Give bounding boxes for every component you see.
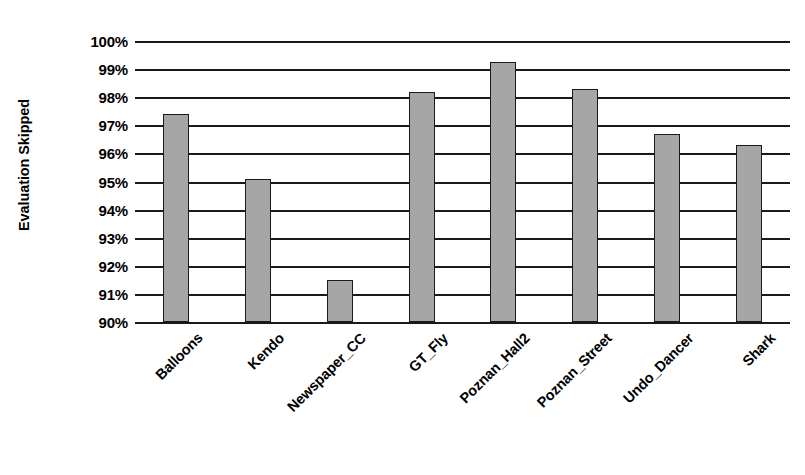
- plot-area: [135, 41, 790, 322]
- y-axis-title-label: Evaluation Skipped: [16, 99, 32, 231]
- y-axis-tick-label: 90%: [99, 314, 128, 331]
- bar: [163, 114, 189, 322]
- bar-chart: Evaluation Skipped 100%99%98%97%96%95%94…: [0, 0, 805, 475]
- bar: [245, 179, 271, 322]
- y-axis-title: Evaluation Skipped: [4, 0, 44, 330]
- y-axis-tick-labels: 100%99%98%97%96%95%94%93%92%91%90%: [44, 0, 132, 340]
- bar: [654, 134, 680, 322]
- y-axis-tick-label: 95%: [99, 173, 128, 190]
- bar: [736, 145, 762, 322]
- y-axis-tick-label: 94%: [99, 201, 128, 218]
- y-axis-tick-label: 99%: [99, 61, 128, 78]
- x-axis-tick-labels: BalloonsKendoNewspaper_CCGT_FlyPoznan_Ha…: [135, 322, 790, 472]
- bar: [572, 89, 598, 322]
- bar: [490, 62, 516, 322]
- y-axis-tick-label: 91%: [99, 285, 128, 302]
- bar: [409, 92, 435, 322]
- x-axis-tick-label: Balloons: [152, 330, 205, 383]
- y-axis-tick-label: 98%: [99, 89, 128, 106]
- y-axis-tick-label: 93%: [99, 229, 128, 246]
- y-axis-tick-label: 92%: [99, 257, 128, 274]
- bars-group: [135, 41, 790, 322]
- y-axis-tick-label: 100%: [90, 33, 128, 50]
- y-axis-tick-label: 96%: [99, 145, 128, 162]
- y-axis-tick-label: 97%: [99, 117, 128, 134]
- bar: [327, 280, 353, 322]
